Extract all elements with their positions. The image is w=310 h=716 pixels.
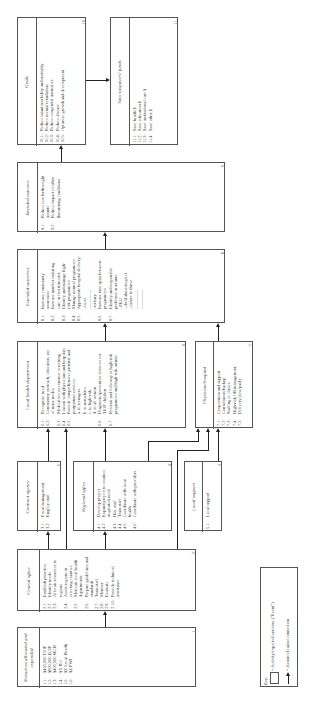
box-title: Goals (18, 18, 37, 146)
list-item: 9.2:Reduce impact of other threatening c… (50, 169, 60, 230)
item-number: 4.5: (122, 517, 132, 529)
list-item: 7.5:Delivery (low/paid) (237, 348, 242, 426)
box-number: 7 (248, 344, 253, 346)
item-number: 8.3: (61, 309, 71, 321)
item-number: 6.5: (66, 414, 97, 426)
list-item: 4.2:Expand project to counties in greate… (101, 468, 111, 529)
key-event-text: = Activity/expected outcome ("Event") (270, 576, 275, 671)
box-items: 5.1:Local support (205, 468, 210, 529)
box-number: 6 (181, 344, 186, 346)
arrowhead-icon (216, 428, 220, 432)
goals-box: Goals1010.1:Reduce infant morbidity and … (17, 17, 86, 145)
item-number: 11.4: (148, 131, 153, 143)
arrowhead-icon (103, 323, 107, 327)
key-event-box-icon (270, 672, 279, 684)
item-number: 8.7: (108, 309, 144, 321)
arrowhead-icon (103, 428, 107, 432)
box-items: 9.1:Reduce low birthweight infants9.2:Re… (40, 169, 61, 230)
connector-contract-lhd (48, 432, 49, 461)
save-funds-box: Save taxpayers' funds1111.1:Save health … (110, 17, 178, 145)
box-title: Save taxpayers' funds (111, 18, 130, 146)
box-items: 3.1:Fiscal management3.2:Employ staff (40, 468, 50, 529)
arrowhead-icon (206, 428, 210, 432)
item-text: Referral and followup of high-risk pregn… (108, 348, 118, 414)
extended-outcomes-box: Extended outcomes88.1:Increase community… (17, 249, 225, 323)
box-number: 11 (173, 20, 178, 24)
box-items: 7.1:Cooperation and support7.2:Consultat… (216, 348, 242, 426)
item-text: Reduce low birthweight infants (40, 169, 50, 218)
item-number: 3.2: (45, 517, 50, 529)
list-item: 1.6:$Z PWJ (68, 634, 73, 685)
list-item: 8.3:Identify and manage high-risk pregna… (61, 256, 71, 321)
central-office-box: Central office22.1:Establish priorities2… (17, 549, 196, 611)
box-title: Physician/hospital (196, 342, 214, 429)
box-number: 9 (220, 165, 225, 167)
list-item: 3.2:Employ staff (45, 468, 50, 529)
connector-regional-physician (148, 441, 149, 461)
item-text: Provide comprehensive prenatal and postp… (66, 348, 97, 414)
item-text: Employ staff (45, 468, 50, 517)
box-title: Intended outcome (18, 163, 38, 233)
item-number: 8.6: (97, 309, 107, 321)
item-number: 6.2: (45, 414, 55, 426)
item-number: 9.1: (40, 218, 50, 230)
list-item: 2.5:Motivate local health departments (73, 556, 83, 609)
resources-box: Resources allocated and expended11.1:$40… (17, 627, 196, 687)
list-item: 2.3:Allocate resources to regions (52, 556, 62, 609)
list-item: 6.2:Community outreach, education, use o… (45, 348, 55, 426)
intended-outcome-box: Intended outcome99.1:Reduce low birthwei… (17, 162, 225, 232)
item-text: Prepare guidelines and standards (84, 556, 94, 597)
item-number: 2.10: (110, 597, 120, 609)
list-item: 2.6:Prepare guidelines and standards (84, 556, 94, 609)
list-item: 9.1:Reduce low birthweight infants (40, 169, 50, 230)
arrowhead-icon (103, 611, 107, 615)
item-text: $Z PWJ (68, 634, 73, 673)
box-items: 10.1:Reduce infant morbidity and mortali… (39, 24, 65, 143)
item-text: Reduce impact of other threatening condi… (50, 169, 60, 218)
list-item: 6.6:Diagnostic/preventive services for T… (97, 348, 107, 426)
box-items: 6.1:Recognize need6.2:Community outreach… (40, 348, 118, 426)
local-health-department-box: Local health department66.1:Recognize ne… (17, 341, 186, 428)
contract-agency-box: Contract agency53.1:Fiscal management3.2… (17, 461, 61, 531)
item-text: Coordinate with local health (122, 468, 132, 517)
item-number: 6.6: (97, 414, 107, 426)
list-item: 8.1:Increase community awareness (40, 256, 50, 321)
list-item: 4.6:Coordinate with providers (132, 468, 137, 529)
arrowhead-icon (64, 428, 68, 432)
box-title: Central office (18, 550, 40, 612)
box-title: Local support (185, 462, 203, 532)
box-number: 10 (81, 20, 86, 25)
list-item: 4.5:Coordinate with local health (122, 468, 132, 529)
box-items: 1.1:$400,000 TIOP1.2:$800,000 ECIP1.3:$4… (42, 634, 73, 685)
list-item: 8.2:Increase number initiating care in f… (50, 256, 60, 321)
item-number: 6.7: (108, 414, 118, 426)
list-item: 6.5:Provide comprehensive prenatal and p… (66, 348, 97, 426)
item-text: Appropriate hospital delivery: –local –—… (76, 256, 97, 309)
connector-goals-save (86, 80, 106, 81)
arrowhead-icon (46, 531, 50, 535)
physician-hospital-box: Physician/hospital77.1:Cooperation and s… (195, 341, 253, 428)
arrowhead-icon (103, 531, 107, 535)
list-item: 8.5:Appropriate hospital delivery: –loca… (76, 256, 97, 321)
box-title: Extended outcomes (18, 250, 38, 324)
item-text: Identify and respond to problems in infa… (108, 256, 144, 309)
connector-central-physician (177, 450, 208, 451)
key-arrowhead-icon (286, 672, 290, 676)
item-text: Motivate local health departments (73, 556, 83, 597)
arrowhead-icon (216, 323, 220, 327)
item-text: Local support (205, 468, 210, 517)
key-label: Key: (263, 677, 268, 685)
item-number: 9.2: (50, 218, 60, 230)
box-number: 4 (167, 464, 172, 466)
item-text: Coordinate with providers (132, 468, 137, 517)
box-number: 8 (220, 252, 225, 254)
box-title: Regional office (74, 462, 94, 532)
box-number: 2 (191, 552, 196, 554)
arrowhead-icon (106, 78, 110, 82)
list-item: 8.7:Identify and respond to problems in … (108, 256, 144, 321)
connector-regional-physician (148, 441, 198, 442)
item-text: Delivery (low/paid) (237, 348, 242, 414)
connector-physician-extended (218, 327, 219, 341)
item-number: 1.6: (68, 673, 73, 685)
item-text: Increase community awareness (40, 256, 50, 309)
